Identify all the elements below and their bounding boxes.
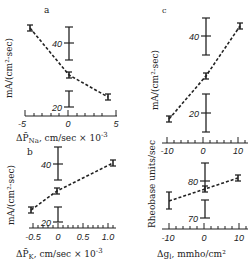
panel-b: b mA/(cm²·sec) 40 20 xyxy=(6,147,116,261)
panel-label-a: a xyxy=(44,5,50,15)
x-tick: 0 xyxy=(55,232,60,242)
scale-bar-a: 40 20 xyxy=(51,27,74,113)
x-tick: -5 xyxy=(18,119,27,129)
y-axis-label-b: mA/(cm²·sec) xyxy=(6,165,16,225)
x-tick: -0.5 xyxy=(25,232,42,242)
error-bar xyxy=(237,23,243,29)
error-bar xyxy=(66,72,72,78)
x-axis-label-a: ΔP̄Na, cm/sec × 10-3 xyxy=(16,131,108,145)
x-tick: 10 xyxy=(234,233,244,243)
panel-a: a mA/(cm²·sec) 40 20 xyxy=(4,5,119,145)
x-axis-a: -5 0 5 xyxy=(18,110,120,129)
x-axis-b: -0.5 0 0.5 1.0 xyxy=(25,223,116,242)
scale-label: 40 xyxy=(41,160,51,170)
x-tick: -10 xyxy=(160,146,173,156)
panel-c: c mA/(cm²·sec) 40 20 xyxy=(150,6,248,156)
x-tick: 0 xyxy=(200,146,205,156)
scale-label: 40 xyxy=(189,32,199,42)
x-tick: 0 xyxy=(201,233,206,243)
y-axis-label-c: mA/(cm²·sec) xyxy=(150,50,160,110)
x-tick: -10 xyxy=(161,233,174,243)
x-tick: 10 xyxy=(233,146,243,156)
scale-label: 70 xyxy=(188,214,198,224)
y-axis-label-d: Rheobase units/sec xyxy=(147,140,157,228)
y-axis-label-a: mA/(cm²·sec) xyxy=(4,38,14,98)
error-bar xyxy=(110,160,116,166)
panel-label-c: c xyxy=(162,6,167,15)
scale-bar-c: 40 20 xyxy=(188,18,211,132)
error-bar xyxy=(54,188,60,194)
x-tick: 0 xyxy=(65,119,70,129)
error-bar xyxy=(203,73,209,79)
panel-label-b: b xyxy=(27,147,33,157)
scale-bar-d: 80 70 xyxy=(188,163,210,224)
x-tick: 5 xyxy=(113,119,119,129)
data-line-b xyxy=(31,163,113,210)
x-axis-c: -10 0 10 xyxy=(160,137,248,156)
x-axis-label-d: Δgl, mmho/cm² xyxy=(157,249,226,261)
scale-label: 80 xyxy=(188,177,198,187)
panel-d: Rheobase units/sec 80 70 xyxy=(147,140,248,261)
scale-label: 20 xyxy=(188,109,199,119)
x-tick: 0.5 xyxy=(77,232,91,242)
scale-label: 20 xyxy=(40,218,51,228)
x-axis-label-b: ΔP̄K, cm/sec × 10-3 xyxy=(16,247,103,261)
scale-label: 40 xyxy=(52,39,62,49)
scale-label: 20 xyxy=(51,103,62,113)
figure: a mA/(cm²·sec) 40 20 xyxy=(0,0,252,267)
x-tick: 1.0 xyxy=(102,232,115,242)
x-axis-d: -10 0 10 xyxy=(161,223,248,243)
